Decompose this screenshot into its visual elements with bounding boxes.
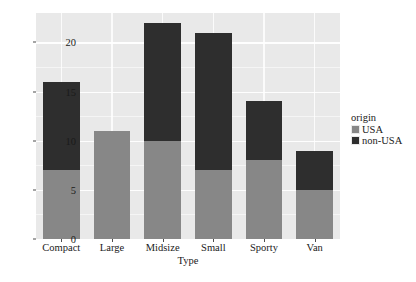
y-axis-tick-mark [33,42,36,43]
x-axis-tick-small: Small [201,242,226,253]
legend-title: origin [351,112,402,123]
x-axis-tick-mark [61,239,62,242]
x-axis-tick-van: Van [306,242,322,253]
x-axis-tick-mark [112,239,113,242]
bar-large [94,13,130,239]
x-axis-tick-sporty: Sporty [250,242,278,253]
gridline-minor [36,214,340,215]
y-axis-tick-mark [33,91,36,92]
bar-van [296,13,332,239]
bar-segment-compact-usa [43,170,79,239]
bar-segment-midsize-non-usa [144,23,180,141]
gridline-major [36,92,340,93]
gridline-minor [36,116,340,117]
legend-swatch-icon [351,125,360,134]
y-axis-tick-label: 20 [50,37,76,48]
bar-midsize [144,13,180,239]
gridline-major [36,42,340,43]
x-axis-tick-midsize: Midsize [146,242,180,253]
bar-segment-large-usa [94,131,130,239]
y-axis-tick-label: 5 [50,184,76,195]
y-axis-tick-mark [33,189,36,190]
legend-item-label: non-USA [362,135,402,146]
bar-segment-small-usa [195,170,231,239]
y-axis-tick-mark [33,239,36,240]
legend: origin USAnon-USA [351,112,402,146]
bar-small [195,13,231,239]
bar-chart: 05101520 count CompactLargeMidsizeSmallS… [0,0,416,282]
bar-sporty [246,13,282,239]
bar-segment-midsize-usa [144,141,180,239]
x-axis-tick-large: Large [100,242,124,253]
legend-swatch-icon [351,136,360,145]
bar-segment-sporty-non-usa [246,101,282,160]
gridline-major [36,141,340,142]
y-axis-tick-label: 15 [50,86,76,97]
legend-item-label: USA [362,124,383,135]
x-axis-tick-mark [264,239,265,242]
y-axis-tick-label: 10 [50,135,76,146]
legend-entries: USAnon-USA [351,124,402,146]
legend-item-usa[interactable]: USA [351,124,402,135]
gridline-minor [36,67,340,68]
gridline-major [36,190,340,191]
y-axis-tick-mark [33,140,36,141]
x-axis-tick-compact: Compact [42,242,80,253]
gridline-minor [36,165,340,166]
legend-item-non-usa[interactable]: non-USA [351,135,402,146]
plot-panel [36,13,340,239]
x-axis-title: Type [36,255,340,266]
x-axis-tick-mark [163,239,164,242]
bar-segment-van-usa [296,190,332,239]
bar-segment-sporty-usa [246,160,282,239]
x-axis-tick-mark [213,239,214,242]
bar-segment-van-non-usa [296,151,332,190]
x-axis-tick-mark [315,239,316,242]
bar-segment-small-non-usa [195,33,231,171]
